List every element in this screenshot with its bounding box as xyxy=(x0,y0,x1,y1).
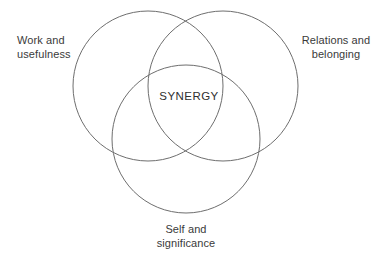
label-self-and-significance: Self and significance xyxy=(136,223,236,250)
label-synergy-center: SYNERGY xyxy=(139,90,239,104)
label-relations-and-belonging: Relations and belonging xyxy=(288,34,384,61)
venn-diagram: Work and usefulness Relations and belong… xyxy=(0,0,388,265)
self-and-significance-circle xyxy=(112,65,260,213)
label-work-and-usefulness: Work and usefulness xyxy=(17,34,109,61)
